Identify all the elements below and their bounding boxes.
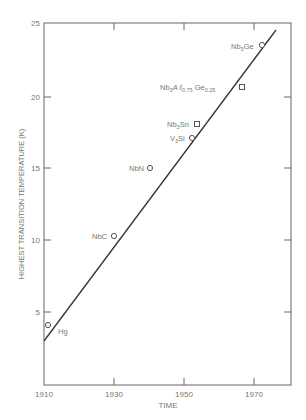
label-hg: Hg [58,327,68,336]
y-axis-label: HIGHEST TRANSITION TEMPERATURE (K) [17,128,26,279]
chart: 1910 1930 1950 1970 TIME 5 10 15 20 25 H… [0,0,306,420]
x-tick-label: 1950 [175,390,193,399]
point-nbc [111,233,116,238]
x-axis-label: TIME [158,401,177,410]
x-tick-label: 1930 [105,390,123,399]
trend-line [44,30,276,341]
point-hg [45,322,50,327]
data-markers [45,42,264,327]
point-v3si [189,135,194,140]
point-nb3alge [240,85,245,90]
y-ticks-left [44,97,51,312]
y-tick-label: 5 [36,308,41,317]
plot-frame [44,23,291,385]
x-tick-label: 1970 [245,390,263,399]
x-ticks-top [114,23,254,30]
y-tick-labels: 5 10 15 20 25 [31,19,40,317]
y-tick-label: 25 [31,19,40,28]
label-nb3alge: Nb3A ℓ0.75 Ge0.25 [160,83,215,93]
y-ticks-right [284,97,291,312]
y-tick-label: 10 [31,236,40,245]
label-nb3sn: Nb3Sn [167,120,189,130]
label-v3si: V3Si [170,134,185,144]
point-nb3ge [259,42,264,47]
label-nb3ge: Nb3Ge [231,42,254,52]
x-tick-labels: 1910 1930 1950 1970 [35,390,263,399]
x-ticks-bottom [114,378,254,385]
y-tick-label: 15 [31,164,40,173]
point-labels: Hg NbC NbN V3Si Nb3Sn Nb3A ℓ0.75 Ge0.25 … [58,42,254,336]
point-nbn [147,165,152,170]
x-tick-label: 1910 [35,390,53,399]
point-nb3sn [195,122,200,127]
label-nbc: NbC [92,232,108,241]
y-tick-label: 20 [31,93,40,102]
label-nbn: NbN [129,164,144,173]
